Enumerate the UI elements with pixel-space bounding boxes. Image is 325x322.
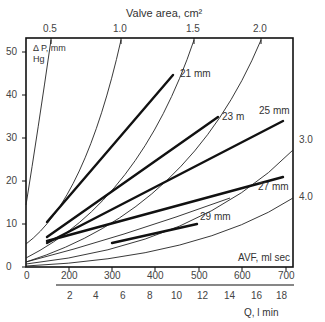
q-tick-10: 10: [171, 291, 182, 301]
y-tick-50: 50: [6, 47, 17, 57]
label-25mm: 25 mm: [259, 106, 290, 116]
y-tick-10: 10: [6, 219, 17, 229]
x-tick-700: 700: [278, 271, 295, 281]
x-axis-label: AVF, ml sec: [238, 253, 290, 263]
y-axis-label: Δ P, mm Hg: [33, 43, 73, 65]
label-29mm: 29 mm: [200, 212, 231, 222]
label-23mm: 23 m: [222, 112, 244, 122]
prosthesis-lines: [47, 75, 283, 243]
top-tick-0.5: 0.5: [43, 24, 57, 34]
q-tick-14: 14: [224, 291, 235, 301]
top-ticks: [51, 38, 261, 44]
top-tick-1.0: 1.0: [113, 24, 127, 34]
y-tick-0: 0: [6, 262, 12, 272]
label-21mm: 21 mm: [180, 69, 211, 79]
right-tick-4.0: 4.0: [299, 192, 313, 202]
q-tick-8: 8: [147, 291, 153, 301]
x-tick-0: 0: [24, 271, 30, 281]
q-axis-label: Q, l min: [244, 308, 278, 318]
top-tick-2.0: 2.0: [253, 24, 267, 34]
q-tick-4: 4: [93, 291, 99, 301]
q-tick-18: 18: [276, 291, 287, 301]
q-tick-2: 2: [67, 291, 73, 301]
y-tick-40: 40: [6, 90, 17, 100]
q-tick-6: 6: [120, 291, 126, 301]
y-tick-20: 20: [6, 176, 17, 186]
x-tick-400: 400: [147, 271, 164, 281]
top-axis-title: Valve area, cm²: [126, 8, 202, 19]
q-tick-12: 12: [197, 291, 208, 301]
x-tick-200: 200: [61, 271, 78, 281]
q-tick-16: 16: [251, 291, 262, 301]
label-27mm: 27 mm: [258, 182, 289, 192]
line-21mm: [47, 75, 173, 222]
x-tick-300: 300: [104, 271, 121, 281]
x-tick-600: 600: [234, 271, 251, 281]
right-tick-3.0: 3.0: [299, 135, 313, 145]
x-tick-500: 500: [191, 271, 208, 281]
y-tick-30: 30: [6, 133, 17, 143]
top-tick-1.5: 1.5: [186, 24, 200, 34]
